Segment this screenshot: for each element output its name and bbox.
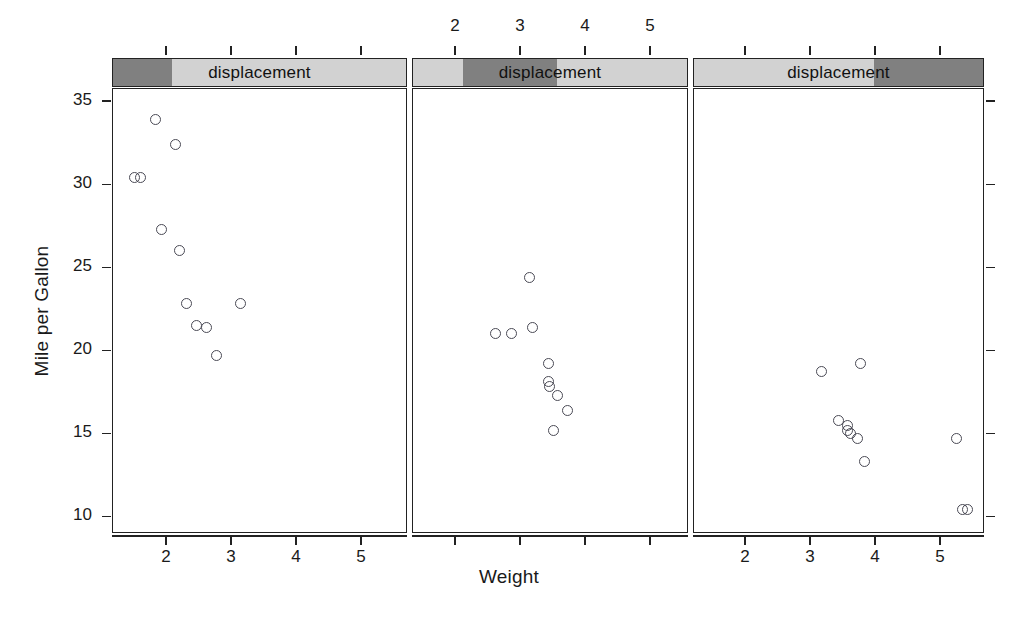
x-tick-bottom <box>519 536 521 545</box>
x-tick-top <box>649 46 651 55</box>
y-tick-right <box>986 350 995 352</box>
x-tick-bottom <box>295 536 297 545</box>
data-point <box>211 350 222 361</box>
x-tick-bottom <box>584 536 586 545</box>
x-tick-bottom <box>809 536 811 545</box>
y-tick-label: 35 <box>46 90 92 110</box>
y-tick-left <box>102 267 111 269</box>
panel-3 <box>693 88 984 533</box>
coplot-figure: Mile per Gallon Weight displacement2345d… <box>0 0 1018 643</box>
panel-1 <box>112 88 407 533</box>
x-tick-bottom <box>230 536 232 545</box>
panel-strip-2: displacement <box>412 58 688 87</box>
data-point <box>191 320 202 331</box>
data-point <box>852 433 863 444</box>
x-axis-spine-2 <box>412 535 688 537</box>
data-point <box>552 390 563 401</box>
strip-shingle-interval-3 <box>874 59 984 86</box>
x-axis-spine-3 <box>693 535 984 537</box>
x-axis-title: Weight <box>0 566 1018 588</box>
data-point <box>201 322 212 333</box>
y-tick-left <box>102 516 111 518</box>
strip-shingle-interval-1 <box>113 59 172 86</box>
y-tick-label: 25 <box>46 256 92 276</box>
y-tick-right <box>986 100 995 102</box>
y-tick-left <box>102 433 111 435</box>
x-tick-top <box>454 46 456 55</box>
y-tick-right <box>986 516 995 518</box>
x-tick-bottom <box>360 536 362 545</box>
x-tick-label: 4 <box>568 16 602 36</box>
x-tick-bottom <box>454 536 456 545</box>
x-axis-spine-1 <box>112 535 407 537</box>
y-axis-title: Mile per Gallon <box>31 201 53 421</box>
x-tick-label: 5 <box>344 547 378 567</box>
y-tick-label: 15 <box>46 422 92 442</box>
data-point <box>156 224 167 235</box>
x-tick-label: 3 <box>214 547 248 567</box>
x-tick-bottom <box>649 536 651 545</box>
data-point <box>174 245 185 256</box>
x-tick-label: 5 <box>633 16 667 36</box>
y-tick-label: 20 <box>46 339 92 359</box>
data-point <box>951 433 962 444</box>
data-point <box>524 272 535 283</box>
x-tick-bottom <box>744 536 746 545</box>
x-tick-top <box>165 46 167 55</box>
panel-strip-1: displacement <box>112 58 407 87</box>
data-point <box>816 366 827 377</box>
y-tick-left <box>102 100 111 102</box>
data-point <box>490 328 501 339</box>
x-tick-top <box>744 46 746 55</box>
x-tick-top <box>874 46 876 55</box>
x-tick-top <box>584 46 586 55</box>
x-tick-label: 4 <box>279 547 313 567</box>
x-tick-bottom <box>165 536 167 545</box>
x-tick-label: 3 <box>793 547 827 567</box>
y-tick-left <box>102 350 111 352</box>
x-tick-label: 4 <box>858 547 892 567</box>
y-tick-right <box>986 184 995 186</box>
data-point <box>548 425 559 436</box>
x-tick-bottom <box>874 536 876 545</box>
y-tick-right <box>986 433 995 435</box>
x-tick-label: 2 <box>728 547 762 567</box>
y-tick-label: 10 <box>46 505 92 525</box>
x-tick-label: 2 <box>149 547 183 567</box>
y-tick-left <box>102 184 111 186</box>
data-point <box>562 405 573 416</box>
x-tick-top <box>809 46 811 55</box>
data-point <box>150 114 161 125</box>
data-point <box>527 322 538 333</box>
data-point <box>170 139 181 150</box>
strip-shingle-interval-2 <box>463 59 557 86</box>
x-tick-top <box>360 46 362 55</box>
panel-2 <box>412 88 688 533</box>
x-tick-top <box>230 46 232 55</box>
x-tick-label: 5 <box>923 547 957 567</box>
x-tick-label: 3 <box>503 16 537 36</box>
y-tick-right <box>986 267 995 269</box>
x-tick-top <box>295 46 297 55</box>
x-tick-top <box>519 46 521 55</box>
panel-strip-3: displacement <box>693 58 984 87</box>
x-tick-label: 2 <box>438 16 472 36</box>
x-tick-top <box>939 46 941 55</box>
x-tick-bottom <box>939 536 941 545</box>
y-tick-label: 30 <box>46 173 92 193</box>
